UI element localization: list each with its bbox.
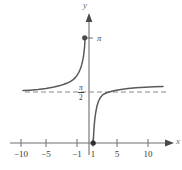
curve-right-branch [93,86,163,142]
endpoint-dot-minus1-pi [82,35,87,40]
fraction-numerator: π [78,84,84,92]
y-value-label-pi-over-2: π 2 [78,84,84,101]
x-axis-label: x [176,137,180,146]
plot-canvas [0,0,182,170]
x-tick-label-10: 10 [144,150,153,159]
y-value-label-pi: π [97,34,101,43]
x-tick-label--5: −5 [41,150,51,159]
fraction-denominator: 2 [78,94,84,102]
x-tick-label--1: −1 [72,150,82,159]
y-axis-label: y [83,1,87,10]
x-tick-label-1: 1 [91,150,96,159]
x-tick-label-5: 5 [115,150,120,159]
endpoint-dot-1-zero [91,140,96,145]
math-plot-figure: y x π π 2 −10 −5 −1 1 5 10 [0,0,182,170]
x-tick-label--10: −10 [14,150,28,159]
x-axis-arrow [165,140,174,147]
curve-left-branch [23,38,85,90]
y-axis-arrow [86,13,93,22]
